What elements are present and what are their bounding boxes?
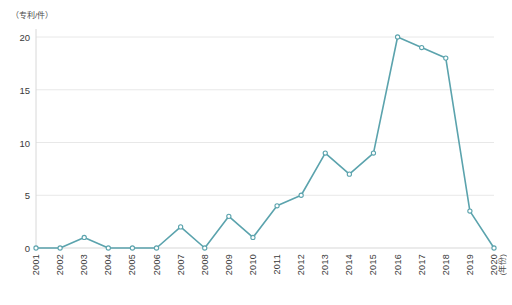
- x-tick-label-2009: 2009: [224, 254, 234, 275]
- y-tick-label-5: 5: [8, 190, 30, 201]
- data-point-marker: [323, 151, 327, 155]
- y-tick-label-15: 15: [8, 84, 30, 95]
- x-axis-unit-label: (年份): [496, 254, 507, 275]
- x-tick-label-2002: 2002: [55, 254, 65, 275]
- data-point-marker: [347, 172, 351, 176]
- x-tick-label-2015: 2015: [368, 254, 378, 275]
- data-point-marker: [395, 35, 399, 39]
- y-tick-label-20: 20: [8, 32, 30, 43]
- data-point-marker: [420, 45, 424, 49]
- y-tick-label-10: 10: [8, 137, 30, 148]
- data-point-marker: [275, 204, 279, 208]
- data-point-marker: [203, 246, 207, 250]
- data-point-marker: [251, 235, 255, 239]
- data-point-marker: [444, 56, 448, 60]
- figure-caption: [0, 297, 512, 305]
- x-tick-label-2001: 2001: [31, 254, 41, 275]
- data-point-marker: [299, 193, 303, 197]
- x-tick-label-2013: 2013: [320, 254, 330, 275]
- x-tick-label-2011: 2011: [272, 254, 282, 275]
- data-point-marker: [34, 246, 38, 250]
- x-tick-label-2016: 2016: [393, 254, 403, 275]
- x-tick-label-2018: 2018: [441, 254, 451, 275]
- x-tick-label-2004: 2004: [103, 254, 113, 275]
- x-tick-label-2014: 2014: [344, 254, 354, 275]
- data-point-marker: [58, 246, 62, 250]
- y-tick-label-0: 0: [8, 243, 30, 254]
- x-tick-label-2007: 2007: [176, 254, 186, 275]
- x-tick-label-2019: 2019: [465, 254, 475, 275]
- data-point-marker: [468, 209, 472, 213]
- x-tick-label-2010: 2010: [248, 254, 258, 275]
- data-point-marker: [227, 214, 231, 218]
- data-point-marker: [492, 246, 496, 250]
- x-tick-label-2012: 2012: [296, 254, 306, 275]
- data-point-marker: [371, 151, 375, 155]
- patent-trend-line-chart: （专利/件） 05101520 200120022003200420052006…: [0, 0, 512, 305]
- x-tick-label-2017: 2017: [417, 254, 427, 275]
- data-point-marker: [130, 246, 134, 250]
- data-point-marker: [179, 225, 183, 229]
- x-tick-label-2008: 2008: [200, 254, 210, 275]
- x-tick-label-2003: 2003: [79, 254, 89, 275]
- data-point-marker: [82, 235, 86, 239]
- data-point-marker: [154, 246, 158, 250]
- x-tick-label-2005: 2005: [127, 254, 137, 275]
- x-tick-label-2006: 2006: [152, 254, 162, 275]
- data-point-marker: [106, 246, 110, 250]
